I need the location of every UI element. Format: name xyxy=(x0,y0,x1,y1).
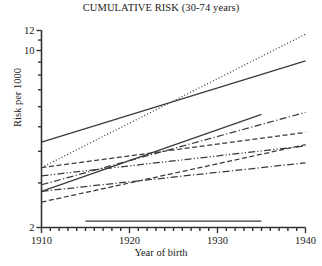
data-series xyxy=(42,34,306,221)
y-tick-label: 10 xyxy=(24,45,35,56)
y-tick-label: 2 xyxy=(29,222,34,233)
series-line xyxy=(42,61,306,142)
series-line xyxy=(42,112,306,184)
x-tick-label: 1920 xyxy=(119,235,140,246)
x-tick-label: 1940 xyxy=(295,235,316,246)
axes xyxy=(42,31,306,228)
y-tick-label: 12 xyxy=(24,25,35,36)
chart-figure: CUMULATIVE RISK (30-74 years) Risk per 1… xyxy=(0,0,322,266)
x-tick-label: 1930 xyxy=(207,235,228,246)
x-tick-label: 1910 xyxy=(31,235,52,246)
tick-labels: 210121910192019301940 xyxy=(24,25,316,245)
chart-canvas: 210121910192019301940 xyxy=(0,0,322,266)
